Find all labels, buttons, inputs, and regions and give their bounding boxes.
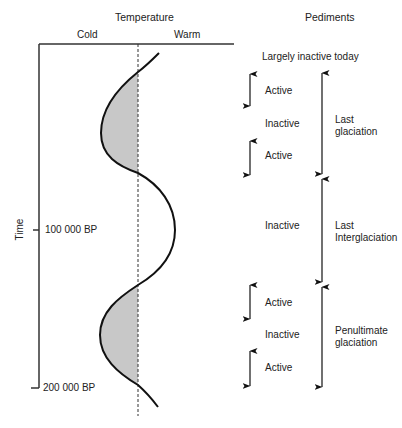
state-label: Active [265,297,292,309]
state-label: Active [265,150,292,162]
state-label: Inactive [265,220,299,232]
cold-label: Cold [77,29,98,41]
tick-label-200k: 200 000 BP [43,382,95,394]
state-label: Active [265,85,292,97]
pediment-temperature-diagram: Temperature Pediments Cold Warm Time 100… [0,0,402,428]
period-label-last-glaciation-line2: glaciation [335,126,377,138]
largely-inactive-label: Largely inactive today [262,51,359,63]
period-label-last-interglaciation-line2: Interglaciation [335,232,397,244]
pediments-header: Pediments [305,11,355,23]
cold-period-shade-1 [101,72,138,173]
state-label: Active [265,362,292,374]
state-label: Inactive [265,329,299,341]
state-label: Inactive [265,118,299,130]
period-label-last-glaciation-line1: Last [335,114,354,126]
tick-label-100k: 100 000 BP [45,224,97,236]
period-label-penultimate-glaciation-line1: Penultimate [335,325,388,337]
time-axis-label: Time [14,219,25,241]
temperature-header: Temperature [115,11,174,23]
period-label-last-interglaciation-line1: Last [335,220,354,232]
diagram-graphics [0,0,402,428]
warm-label: Warm [174,29,200,41]
period-label-penultimate-glaciation-line2: glaciation [335,337,377,349]
